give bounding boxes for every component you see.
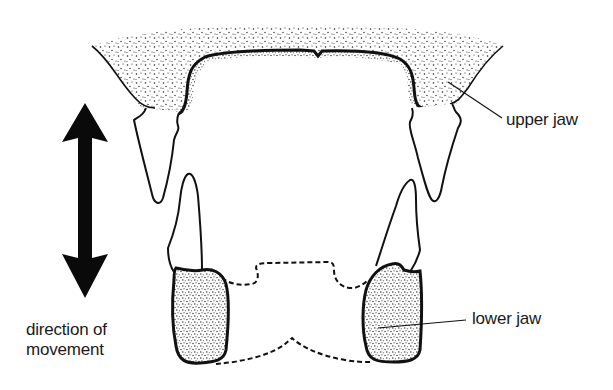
- direction-of-movement-label: direction of movement: [26, 320, 107, 360]
- upper-tooth-right: [410, 104, 461, 201]
- direction-label-line-2: movement: [26, 340, 107, 360]
- lower-jaw-left: [173, 268, 229, 363]
- lower-tooth-right: [376, 180, 420, 272]
- lower-jaw-label: lower jaw: [472, 309, 541, 329]
- lower-jaw-right: [363, 263, 422, 362]
- double-arrow-icon: [62, 103, 108, 298]
- direction-label-line-1: direction of: [26, 320, 107, 340]
- upper-jaw-label: upper jaw: [506, 110, 578, 130]
- upper-jaw: [92, 27, 503, 115]
- upper-tooth-left: [134, 108, 180, 203]
- jaw-diagram: upper jaw lower jaw direction of movemen…: [0, 0, 613, 390]
- lower-tooth-left: [168, 174, 202, 272]
- lower-jaw-dashed-outline: [216, 262, 372, 364]
